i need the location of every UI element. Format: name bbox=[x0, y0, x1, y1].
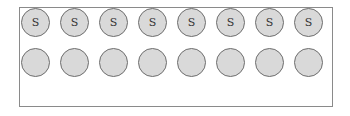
blank-circle[interactable] bbox=[255, 48, 284, 77]
labeled-circle[interactable]: S bbox=[255, 8, 284, 37]
blank-circle[interactable] bbox=[294, 48, 323, 77]
labeled-circle[interactable]: S bbox=[216, 8, 245, 37]
labeled-circle[interactable]: S bbox=[60, 8, 89, 37]
blank-circle[interactable] bbox=[216, 48, 245, 77]
labeled-circle[interactable]: S bbox=[177, 8, 206, 37]
labeled-circle[interactable]: S bbox=[294, 8, 323, 37]
blank-circle[interactable] bbox=[21, 48, 50, 77]
labeled-circle[interactable]: S bbox=[21, 8, 50, 37]
labeled-circle[interactable]: S bbox=[138, 8, 167, 37]
blank-circle[interactable] bbox=[99, 48, 128, 77]
blank-circle[interactable] bbox=[177, 48, 206, 77]
labeled-circle[interactable]: S bbox=[99, 8, 128, 37]
container-box: SSSSSSSS bbox=[19, 7, 333, 107]
blank-circle[interactable] bbox=[60, 48, 89, 77]
blank-circle[interactable] bbox=[138, 48, 167, 77]
